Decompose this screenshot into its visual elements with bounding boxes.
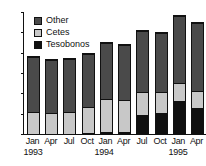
x-axis-year-1993: 1993	[20, 147, 46, 157]
bar-oct-7	[155, 32, 168, 134]
x-tick-label-5: Apr	[115, 136, 132, 146]
bar-apr-1	[45, 59, 58, 134]
bar-jan-0	[27, 56, 40, 134]
bar-segment-cetes	[46, 113, 57, 134]
legend: Other Cetes Tesobonos	[31, 13, 94, 53]
x-tick-labels: JanAprJulOctJanAprJulOctJanApr	[23, 136, 205, 146]
x-tick-label-9: Apr	[188, 136, 205, 146]
bar-segment-tesobonos	[156, 113, 167, 134]
bar-segment-cetes	[64, 112, 75, 134]
x-axis-year-labels: 199319941995	[23, 147, 205, 159]
bar-segment-cetes	[119, 100, 130, 132]
bar-segment-other	[137, 31, 148, 92]
bar-jan-8	[173, 15, 186, 134]
bar-oct-3	[82, 53, 95, 134]
bar-segment-other	[174, 16, 185, 83]
bar-segment-other	[156, 33, 167, 93]
legend-label-tesobonos: Tesobonos	[46, 40, 90, 49]
legend-swatch-tesobonos-icon	[34, 41, 42, 49]
bar-segment-tesobonos	[83, 133, 94, 134]
x-axis-year-1994: 1994	[91, 147, 117, 157]
x-tick-label-2: Jul	[60, 136, 77, 146]
bar-segment-other	[46, 60, 57, 113]
bar-segment-tesobonos	[119, 132, 130, 134]
legend-item-other: Other	[34, 15, 90, 26]
x-axis-year-1995: 1995	[165, 147, 191, 157]
bar-segment-tesobonos	[192, 108, 203, 134]
bar-jul-2	[63, 58, 76, 134]
bar-segment-cetes	[137, 92, 148, 115]
x-tick-label-1: Apr	[42, 136, 59, 146]
x-tick-label-7: Oct	[152, 136, 169, 146]
x-tick-label-0: Jan	[24, 136, 41, 146]
x-tick-label-8: Jan	[170, 136, 187, 146]
bar-segment-other	[192, 23, 203, 91]
bar-segment-cetes	[83, 107, 94, 133]
bar-segment-tesobonos	[101, 132, 112, 134]
x-tick-label-4: Jan	[97, 136, 114, 146]
legend-label-other: Other	[46, 16, 69, 25]
x-axis: JanAprJulOctJanAprJulOctJanApr 199319941…	[23, 136, 205, 166]
bar-segment-cetes	[28, 112, 39, 134]
y-tick-mark	[21, 134, 25, 135]
bar-segment-other	[28, 57, 39, 112]
legend-label-cetes: Cetes	[46, 28, 70, 37]
bar-jul-6	[136, 30, 149, 134]
bar-segment-tesobonos	[174, 101, 185, 134]
bar-apr-5	[118, 44, 131, 134]
x-tick-label-6: Jul	[133, 136, 150, 146]
legend-item-tesobonos: Tesobonos	[34, 39, 90, 50]
bar-segment-other	[101, 43, 112, 100]
bar-segment-other	[83, 54, 94, 107]
bar-segment-other	[64, 59, 75, 112]
bar-segment-cetes	[192, 91, 203, 109]
x-tick-label-3: Oct	[79, 136, 96, 146]
stacked-bar-chart: 0 50 100 150 200 250 300 Other Cetes Tes…	[0, 0, 206, 166]
bar-apr-9	[191, 22, 204, 134]
legend-swatch-other-icon	[34, 17, 42, 25]
bar-jan-4	[100, 42, 113, 134]
bar-segment-tesobonos	[137, 115, 148, 134]
legend-swatch-cetes-icon	[34, 29, 42, 37]
legend-item-cetes: Cetes	[34, 27, 90, 38]
bar-segment-cetes	[101, 99, 112, 132]
bar-segment-other	[119, 45, 130, 100]
bar-segment-cetes	[156, 92, 167, 113]
bar-segment-cetes	[174, 83, 185, 101]
